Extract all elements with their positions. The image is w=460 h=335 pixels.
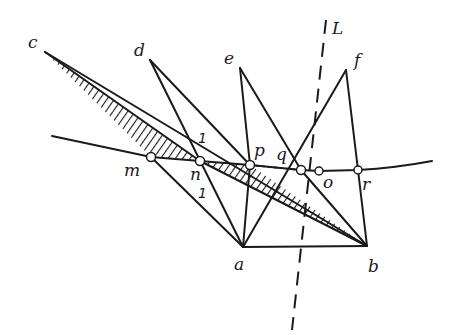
segment-p-q-dash [250,165,301,170]
segment-n-b [200,161,367,246]
label-f: f [352,50,363,70]
geometric-diagram: c d e f L a b m n p q o r 1 1 [0,0,460,335]
label-c: c [28,32,38,52]
point-o [315,167,323,175]
label-L: L [331,18,343,38]
label-d: d [134,40,145,60]
label-e: e [224,48,234,68]
point-r [354,166,362,174]
label-n: n [190,164,201,184]
point-m [147,153,156,162]
segment-c-b [45,52,367,246]
label-o: o [323,172,333,192]
mark-1-lower: 1 [198,185,207,201]
label-b: b [368,256,379,276]
label-q: q [276,144,287,164]
point-p [246,161,255,170]
point-q [297,166,306,175]
segment-f-r [346,70,358,170]
label-p: p [254,140,265,160]
segment-c-n [45,52,200,161]
label-a: a [234,254,244,274]
mark-1-upper: 1 [198,130,207,146]
label-r: r [362,174,371,194]
segment-a-b [243,246,367,247]
label-m: m [124,160,140,180]
